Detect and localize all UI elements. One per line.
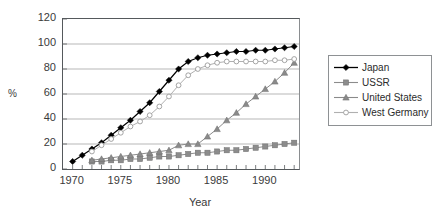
y-tick-label: 20: [22, 136, 56, 148]
x-tick-label: 1980: [148, 174, 188, 186]
filled-diamond-icon: [333, 61, 359, 74]
y-tick-label: 80: [22, 61, 56, 73]
plot-area: [62, 18, 300, 170]
legend-item-label: Japan: [359, 62, 389, 73]
legend-item: United States: [333, 90, 427, 105]
open-circle-icon: [333, 106, 359, 119]
x-axis-title: Year: [160, 196, 240, 208]
y-tick-label: 0: [22, 161, 56, 173]
legend-item: Japan: [333, 60, 427, 75]
legend-item-label: West Germany: [359, 107, 429, 118]
filled-square-icon: [333, 76, 359, 89]
x-tick-label: 1990: [244, 174, 284, 186]
y-tick-label: 40: [22, 111, 56, 123]
legend-item-label: USSR: [359, 77, 390, 88]
x-tick-label: 1975: [100, 174, 140, 186]
series-canvas: [63, 19, 299, 169]
x-tick-label: 1985: [196, 174, 236, 186]
legend-item-label: United States: [359, 92, 422, 103]
x-tick-label: 1970: [52, 174, 92, 186]
chart-figure: % 020406080100120 19701975198019851990 Y…: [0, 0, 445, 218]
y-tick-label: 100: [22, 36, 56, 48]
y-tick-label: 120: [22, 11, 56, 23]
legend-item: USSR: [333, 75, 427, 90]
y-axis-label: %: [8, 88, 17, 99]
legend-item: West Germany: [333, 105, 427, 120]
series-west-germany: [89, 57, 296, 154]
filled-triangle-icon: [333, 91, 359, 104]
y-tick-label: 60: [22, 86, 56, 98]
legend: JapanUSSRUnited StatesWest Germany: [328, 55, 432, 126]
